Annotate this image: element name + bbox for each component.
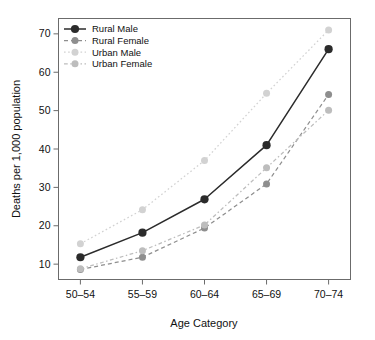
y-tick-label: 30: [39, 181, 51, 193]
chart-container: 10203040506070 50–5455–5960–6465–6970–74…: [0, 0, 375, 340]
y-tick-label: 40: [39, 143, 51, 155]
x-tick-label: 70–74: [314, 288, 343, 300]
x-tick-label: 65–69: [252, 288, 281, 300]
data-point: [77, 265, 84, 272]
legend-label: Rural Female: [92, 35, 149, 46]
x-tick-label: 60–64: [190, 288, 219, 300]
y-tick-label: 50: [39, 104, 51, 116]
data-point: [200, 195, 208, 203]
data-point: [325, 91, 332, 98]
data-point: [325, 107, 332, 114]
x-tick-label: 50–54: [66, 288, 95, 300]
y-tick-label: 60: [39, 66, 51, 78]
x-tick-label: 55–59: [128, 288, 157, 300]
data-point: [138, 229, 146, 237]
data-point: [325, 45, 333, 53]
data-point: [325, 27, 332, 34]
data-point: [76, 253, 84, 261]
legend-marker: [71, 25, 79, 33]
data-point: [262, 141, 270, 149]
legend-item-rural-male[interactable]: Rural Male: [64, 23, 138, 34]
legend-label: Rural Male: [92, 23, 138, 34]
legend-marker: [72, 49, 79, 56]
data-point: [263, 164, 270, 171]
data-point: [201, 157, 208, 164]
data-point: [139, 247, 146, 254]
line-chart: 10203040506070 50–5455–5960–6465–6970–74…: [0, 0, 375, 340]
y-tick-label: 20: [39, 219, 51, 231]
y-axis-title: Deaths per 1,000 population: [10, 80, 22, 218]
data-point: [77, 240, 84, 247]
y-tick-label: 10: [39, 258, 51, 270]
data-point: [263, 90, 270, 97]
legend-marker: [72, 37, 79, 44]
data-point: [263, 180, 270, 187]
y-tick-label: 70: [39, 27, 51, 39]
legend-marker: [72, 60, 79, 67]
data-point: [139, 254, 146, 261]
data-point: [139, 206, 146, 213]
legend-label: Urban Female: [92, 58, 152, 69]
data-point: [201, 221, 208, 228]
legend-label: Urban Male: [92, 47, 141, 58]
x-axis-title: Age Category: [170, 317, 238, 329]
